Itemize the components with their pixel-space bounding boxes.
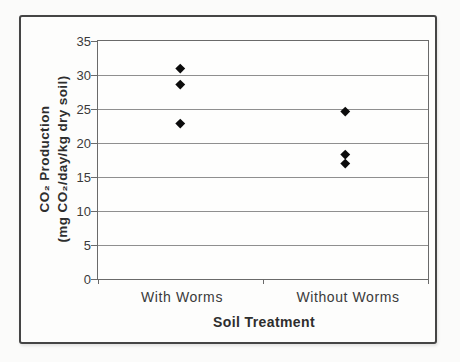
y-tick-mark-30 bbox=[91, 75, 97, 76]
y-tick-mark-35 bbox=[91, 41, 97, 42]
data-point-diamond-5 bbox=[341, 159, 350, 168]
x-axis-title: Soil Treatment bbox=[144, 314, 384, 330]
y-tick-label-10: 10 bbox=[59, 204, 91, 219]
y-tick-mark-5 bbox=[91, 245, 97, 246]
y-tick-label-35: 35 bbox=[59, 34, 91, 49]
y-tick-mark-0 bbox=[91, 279, 97, 280]
gridline-y-20 bbox=[98, 143, 428, 144]
gridline-y-5 bbox=[98, 245, 428, 246]
y-tick-label-15: 15 bbox=[59, 170, 91, 185]
x-tick-mark-1 bbox=[263, 279, 264, 284]
y-tick-label-25: 25 bbox=[59, 102, 91, 117]
data-point-diamond-4 bbox=[341, 150, 350, 159]
y-tick-mark-25 bbox=[91, 109, 97, 110]
gridline-y-10 bbox=[98, 211, 428, 212]
y-axis-title-line1: CO₂ Production bbox=[37, 106, 52, 213]
data-point-diamond-2 bbox=[176, 119, 185, 128]
scanned-chart-figure: CO₂ Production (mg CO₂/day/kg dry soil) … bbox=[0, 0, 460, 362]
x-tick-mark-2 bbox=[428, 279, 429, 284]
category-label-with-worms: With Worms bbox=[102, 289, 262, 305]
gridline-y-15 bbox=[98, 177, 428, 178]
chart-frame: CO₂ Production (mg CO₂/day/kg dry soil) … bbox=[19, 15, 437, 344]
y-tick-label-5: 5 bbox=[59, 238, 91, 253]
y-tick-label-30: 30 bbox=[59, 68, 91, 83]
data-point-diamond-0 bbox=[176, 64, 185, 73]
plot-area bbox=[97, 40, 429, 280]
gridline-y-25 bbox=[98, 109, 428, 110]
gridline-y-30 bbox=[98, 75, 428, 76]
y-tick-label-0: 0 bbox=[59, 272, 91, 287]
y-tick-mark-10 bbox=[91, 211, 97, 212]
category-label-without-worms: Without Worms bbox=[268, 289, 428, 305]
x-tick-mark-0 bbox=[98, 279, 99, 284]
data-point-diamond-1 bbox=[176, 79, 185, 88]
y-tick-mark-15 bbox=[91, 177, 97, 178]
y-tick-mark-20 bbox=[91, 143, 97, 144]
y-tick-label-20: 20 bbox=[59, 136, 91, 151]
